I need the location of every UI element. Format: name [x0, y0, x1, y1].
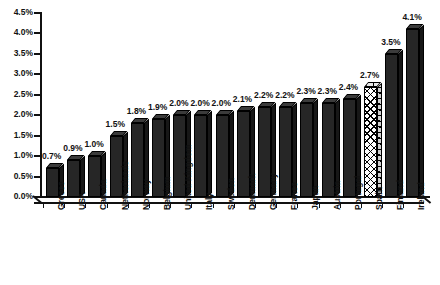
y-axis-tick [34, 94, 40, 96]
bar-value-label: 2.4% [339, 83, 358, 92]
bar-value-label: 2.7% [360, 71, 379, 80]
x-axis-tick [170, 203, 171, 208]
x-axis-tick [319, 203, 320, 208]
bar-front-face [385, 54, 398, 197]
bar-front-face [406, 29, 419, 197]
bar-ireland[interactable]: 4.1% [406, 21, 425, 197]
bar-value-label: 2.0% [190, 99, 209, 108]
bar-value-label: 2.0% [169, 99, 188, 108]
y-axis-tick [34, 32, 40, 34]
bar-value-label: 2.3% [296, 87, 315, 96]
bar-value-label: 1.8% [127, 107, 146, 116]
bar-value-label: 1.0% [84, 140, 103, 149]
x-axis-tick [234, 203, 235, 208]
x-axis-tick [43, 203, 44, 208]
y-axis-tick [34, 12, 40, 14]
bar-side-face [377, 82, 382, 197]
bar-value-label: 0.7% [42, 152, 61, 161]
bar-value-label: 2.3% [318, 87, 337, 96]
bar-chart: 0.0%0.5%1.0%1.5%2.0%2.5%3.0%3.5%4.0%4.5%… [0, 0, 440, 285]
x-axis-tick [128, 203, 129, 208]
bar-front-face [300, 103, 313, 197]
bar-side-face [398, 50, 403, 197]
bars-layer: 0.7%0.9%1.0%1.5%1.8%1.9%2.0%2.0%2.0%2.1%… [0, 0, 440, 285]
bar-front-face [364, 87, 377, 197]
x-axis-tick [276, 203, 277, 208]
bar-finland[interactable]: 3.5% [385, 46, 404, 197]
x-axis-tick [191, 203, 192, 208]
x-axis-tick [403, 203, 404, 208]
y-axis-tick [34, 114, 40, 116]
x-axis-tick [107, 203, 108, 208]
y-axis-tick [34, 155, 40, 157]
bar-spain[interactable]: 2.7% [364, 79, 383, 197]
bar-value-label: 0.9% [63, 144, 82, 153]
bar-value-label: 1.5% [106, 120, 125, 129]
bar-italy[interactable]: 2.0% [194, 107, 213, 197]
x-axis-tick [85, 203, 86, 208]
bar-side-face [313, 99, 318, 197]
y-axis-tick [34, 176, 40, 178]
y-axis-tick [34, 53, 40, 55]
bar-value-label: 3.5% [381, 38, 400, 47]
bar-side-face [80, 156, 85, 197]
x-axis-category-label: United Kingdom [184, 144, 193, 210]
x-axis-category-label: Ireland [417, 182, 426, 210]
y-axis-tick [34, 135, 40, 137]
x-axis-tick [149, 203, 150, 208]
x-axis-tick [297, 203, 298, 208]
y-axis-tick [34, 73, 40, 75]
bar-usa[interactable]: 0.9% [67, 152, 86, 197]
x-axis-tick [361, 203, 362, 208]
x-axis-tick [340, 203, 341, 208]
bar-value-label: 2.2% [254, 91, 273, 100]
x-axis-tick [382, 203, 383, 208]
bar-value-label: 1.9% [148, 103, 167, 112]
x-axis-tick [64, 203, 65, 208]
bar-front-face [194, 115, 207, 197]
bar-value-label: 2.0% [212, 99, 231, 108]
bar-value-label: 2.1% [233, 95, 252, 104]
bar-value-label: 2.2% [275, 91, 294, 100]
y-axis-tick [34, 196, 40, 198]
bar-japan[interactable]: 2.3% [300, 95, 319, 197]
x-axis-tick [213, 203, 214, 208]
bar-side-face [207, 111, 212, 197]
x-axis-tick [255, 203, 256, 208]
bar-side-face [419, 25, 424, 197]
bar-value-label: 4.1% [402, 13, 421, 22]
